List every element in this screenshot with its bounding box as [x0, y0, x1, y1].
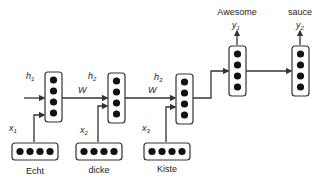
- decoder-node-y1: [229, 46, 246, 96]
- input-word-3: Kiste: [157, 164, 177, 174]
- h3-to-decoder-arrow: [193, 71, 228, 98]
- hidden-node-h1: [45, 72, 62, 122]
- decoder-node-y2: [292, 46, 309, 96]
- output-word-1: Awesome: [217, 7, 256, 17]
- label-h3: h3: [154, 72, 163, 83]
- label-y1: y1: [231, 20, 240, 31]
- hidden-node-h2: [108, 73, 125, 123]
- x1-input-arrow: [34, 115, 44, 142]
- x3-input-arrow: [166, 107, 175, 142]
- connections: [24, 31, 300, 142]
- label-w1: W: [78, 85, 88, 95]
- x2-input-arrow: [98, 106, 107, 142]
- label-x3: x3: [141, 123, 151, 134]
- input-vector-x2: [76, 143, 122, 160]
- input-word-2: dicke: [88, 165, 109, 175]
- label-y2: y2: [295, 20, 305, 31]
- input-word-1: Echt: [26, 166, 45, 176]
- label-x2: x2: [79, 125, 89, 136]
- hidden-node-h3: [176, 74, 193, 124]
- label-h2: h2: [88, 71, 97, 82]
- input-vector-x3: [144, 143, 190, 160]
- label-h1: h1: [26, 71, 34, 82]
- label-w2: W: [148, 85, 158, 95]
- label-x1: x1: [8, 123, 17, 134]
- rnn-diagram: h1 h2 h3 W W x1 x2 x3 Echt dicke Kiste y…: [0, 0, 319, 183]
- output-word-2: sauce: [288, 7, 312, 17]
- input-vector-x1: [12, 143, 58, 160]
